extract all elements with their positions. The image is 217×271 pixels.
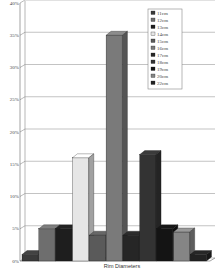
legend-label: 11cm bbox=[157, 11, 168, 16]
y-tick-label: 10% bbox=[10, 194, 19, 199]
legend-label: 17cm bbox=[157, 53, 168, 58]
legend-swatch bbox=[151, 25, 155, 29]
legend-swatch bbox=[151, 60, 155, 64]
y-tick-label: 15% bbox=[10, 162, 19, 167]
bar-22cm bbox=[190, 251, 211, 261]
y-tick-label: 0% bbox=[12, 259, 19, 264]
x-axis-label: Rim Diameters bbox=[104, 263, 141, 269]
bar-chart: 0%5%10%15%20%25%30%35%40% Rim Diameters … bbox=[0, 0, 217, 271]
bars bbox=[22, 31, 212, 261]
legend-swatch bbox=[151, 53, 155, 57]
legend-swatch bbox=[151, 74, 155, 78]
legend-swatch bbox=[151, 39, 155, 43]
legend-label: 15cm bbox=[157, 39, 168, 44]
legend-swatch bbox=[151, 18, 155, 22]
y-tick-label: 5% bbox=[12, 226, 19, 231]
bar-16cm bbox=[106, 31, 127, 261]
legend: 11cm12cm13cm14cm15cm16cm17cm18cm19cm20cm… bbox=[148, 9, 182, 89]
legend-label: 20cm bbox=[157, 74, 168, 79]
legend-label: 22cm bbox=[157, 81, 168, 86]
legend-swatch bbox=[151, 81, 155, 85]
legend-swatch bbox=[151, 32, 155, 36]
y-tick-label: 25% bbox=[10, 97, 19, 102]
legend-label: 18cm bbox=[157, 60, 168, 65]
legend-label: 16cm bbox=[157, 46, 168, 51]
y-tick-label: 35% bbox=[10, 33, 19, 38]
legend-label: 19cm bbox=[157, 67, 168, 72]
y-tick-label: 30% bbox=[10, 65, 19, 70]
legend-label: 12cm bbox=[157, 18, 168, 23]
legend-swatch bbox=[151, 46, 155, 50]
legend-label: 14cm bbox=[157, 32, 168, 37]
y-tick-label: 40% bbox=[10, 1, 19, 6]
legend-swatch bbox=[151, 67, 155, 71]
legend-swatch bbox=[151, 11, 155, 15]
y-tick-label: 20% bbox=[10, 130, 19, 135]
legend-label: 13cm bbox=[157, 25, 168, 30]
